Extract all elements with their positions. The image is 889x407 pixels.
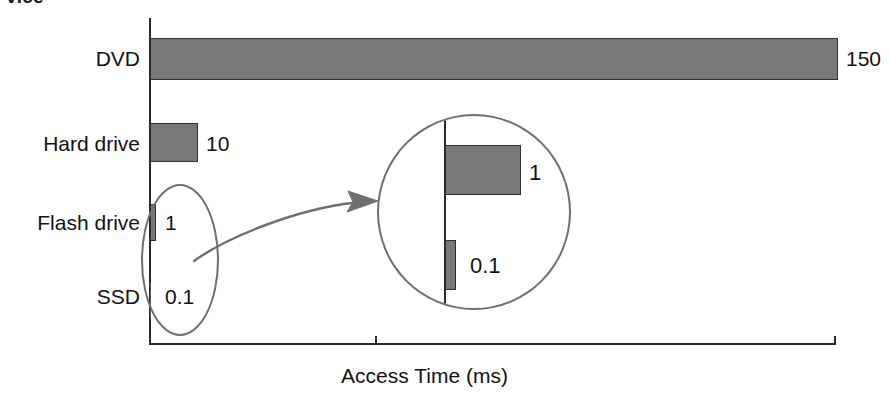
category-label-flash-drive: Flash drive [0, 212, 140, 233]
callout-arrow-icon [190, 175, 390, 265]
magnified-callout: 1 0.1 [377, 114, 571, 310]
chart-title-fragment: vice [6, 0, 44, 8]
highlight-ellipse [141, 184, 219, 336]
callout-bar-flash-drive [445, 145, 521, 195]
category-label-hard-drive: Hard drive [0, 133, 140, 154]
callout-bar-ssd [445, 240, 456, 290]
callout-value-ssd: 0.1 [470, 255, 501, 277]
category-label-ssd: SSD [0, 286, 140, 307]
callout-value-flash-drive: 1 [529, 162, 541, 184]
category-label-dvd: DVD [0, 48, 140, 69]
bar-hard-drive [150, 123, 198, 162]
x-axis-title: Access Time (ms) [0, 364, 889, 388]
bar-dvd [150, 38, 838, 80]
value-label-hard-drive: 10 [206, 133, 229, 154]
x-axis-tick [375, 336, 377, 344]
value-label-dvd: 150 [846, 48, 881, 69]
x-axis-line [149, 343, 836, 345]
access-time-bar-chart: vice DVD Hard drive Flash drive SSD 150 … [0, 0, 889, 407]
x-axis-end-tick [834, 336, 836, 345]
